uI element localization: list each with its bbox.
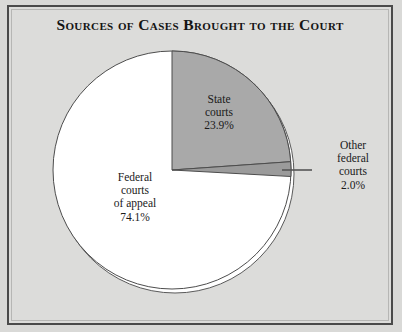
pie-label-federal-courts-of-appeal: Federal courts of appeal 74.1% bbox=[78, 171, 192, 224]
pie-label-other-federal-courts: Other federal courts 2.0% bbox=[313, 139, 393, 192]
figure-container: Sources of Cases Brought to the Court St… bbox=[0, 0, 402, 332]
pie-label-state-courts: State courts 23.9% bbox=[176, 93, 262, 133]
